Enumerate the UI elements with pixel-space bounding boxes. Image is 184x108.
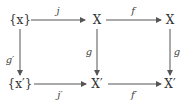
label-j: j [56,6,59,16]
node-bottom-mid: X′ [91,78,102,90]
label-f-prime: f′ [131,90,137,100]
node-bottom-right: X′ [164,78,175,90]
label-g-right: g [174,47,180,57]
node-top-right: X [166,14,175,26]
label-f: f [131,6,135,16]
label-g-mid: g [86,47,92,57]
label-j-prime: j′ [57,90,62,100]
node-bottom-left: {x′} [8,78,33,90]
label-g-prime: g′ [6,55,15,65]
node-top-left: {x} [9,14,31,26]
node-top-mid: X [93,14,102,26]
